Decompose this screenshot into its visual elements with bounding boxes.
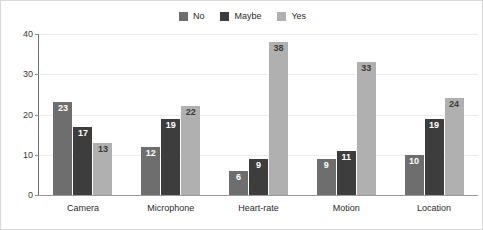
y-axis-tick-label: 30 (23, 69, 33, 79)
bar-location-yes[interactable]: 24 (445, 98, 464, 195)
bar-motion-yes[interactable]: 33 (357, 62, 376, 195)
x-axis-label-motion: Motion (302, 198, 390, 218)
bar-value-label: 12 (141, 149, 160, 158)
x-axis-line (38, 195, 478, 196)
x-axis-category-labels: CameraMicrophoneHeart-rateMotionLocation (39, 198, 478, 218)
x-axis-label-camera: Camera (39, 198, 127, 218)
legend-swatch-yes (277, 12, 286, 21)
bar-value-label: 19 (425, 121, 444, 130)
legend-label: Yes (291, 12, 306, 21)
bar-value-label: 9 (317, 161, 336, 170)
bar-heart-rate-no[interactable]: 6 (229, 171, 248, 195)
plot-area: 010203040 231713121922693891133101924 (39, 34, 478, 195)
bar-location-no[interactable]: 10 (405, 155, 424, 195)
bar-groups: 231713121922693891133101924 (39, 34, 478, 195)
legend-label: No (193, 12, 205, 21)
bar-heart-rate-yes[interactable]: 38 (269, 42, 288, 195)
bar-group-location: 101924 (390, 34, 478, 195)
bar-value-label: 13 (93, 145, 112, 154)
bar-value-label: 23 (53, 104, 72, 113)
bar-microphone-maybe[interactable]: 19 (161, 119, 180, 195)
legend-entry-yes[interactable]: Yes (277, 12, 306, 21)
legend-entry-no[interactable]: No (179, 12, 205, 21)
bar-group-microphone: 121922 (127, 34, 215, 195)
bar-value-label: 17 (73, 129, 92, 138)
y-axis-tick-label: 40 (23, 29, 33, 39)
y-axis-tick-label: 0 (28, 190, 33, 200)
legend-entry-maybe[interactable]: Maybe (220, 12, 261, 21)
bar-value-label: 10 (405, 157, 424, 166)
bar-value-label: 24 (445, 100, 464, 109)
y-axis-tick-label: 10 (23, 150, 33, 160)
bar-value-label: 33 (357, 64, 376, 73)
bar-camera-maybe[interactable]: 17 (73, 127, 92, 195)
x-axis-label-microphone: Microphone (127, 198, 215, 218)
bar-group-motion: 91133 (302, 34, 390, 195)
bar-value-label: 6 (229, 173, 248, 182)
legend-swatch-no (179, 12, 188, 21)
bar-group-camera: 231713 (39, 34, 127, 195)
grouped-bar-chart: NoMaybeYes 010203040 2317131219226938911… (0, 0, 483, 230)
bar-motion-no[interactable]: 9 (317, 159, 336, 195)
bar-group-heart-rate: 6938 (215, 34, 303, 195)
bar-value-label: 22 (181, 108, 200, 117)
y-axis-tick-mark (35, 195, 39, 196)
bar-microphone-yes[interactable]: 22 (181, 106, 200, 195)
bar-value-label: 19 (161, 121, 180, 130)
x-axis-label-heart-rate: Heart-rate (215, 198, 303, 218)
x-axis-label-location: Location (390, 198, 478, 218)
bar-microphone-no[interactable]: 12 (141, 147, 160, 195)
bar-value-label: 9 (249, 161, 268, 170)
y-axis-tick-label: 20 (23, 110, 33, 120)
bar-camera-no[interactable]: 23 (53, 102, 72, 195)
bar-motion-maybe[interactable]: 11 (337, 151, 356, 195)
bar-value-label: 38 (269, 44, 288, 53)
bar-value-label: 11 (337, 153, 356, 162)
legend-label: Maybe (234, 12, 261, 21)
legend-swatch-maybe (220, 12, 229, 21)
bar-location-maybe[interactable]: 19 (425, 119, 444, 195)
bar-heart-rate-maybe[interactable]: 9 (249, 159, 268, 195)
bar-camera-yes[interactable]: 13 (93, 143, 112, 195)
chart-legend: NoMaybeYes (1, 12, 483, 21)
